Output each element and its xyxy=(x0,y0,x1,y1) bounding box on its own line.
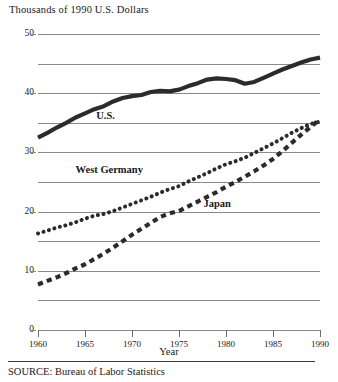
plot-area: U.S. West Germany Japan xyxy=(38,34,320,330)
y-tick-mark xyxy=(31,212,36,213)
series-line-west-germany xyxy=(38,122,320,234)
y-tick-label: 0 xyxy=(8,324,34,334)
y-axis-title: Thousands of 1990 U.S. Dollars xyxy=(9,4,149,15)
series-layer xyxy=(38,34,320,330)
x-tick-mark xyxy=(226,330,227,337)
y-tick-mark xyxy=(31,34,36,35)
y-tick-mark xyxy=(31,271,36,272)
source-note: SOURCE: Bureau of Labor Statistics xyxy=(8,366,165,377)
y-tick-label: 20 xyxy=(8,206,34,216)
series-label-us: U.S. xyxy=(96,110,115,121)
x-tick-mark xyxy=(320,330,321,337)
y-tick-label: 40 xyxy=(8,87,34,97)
chart-figure: Thousands of 1990 U.S. Dollars U.S. West… xyxy=(0,0,338,382)
y-tick-label: 50 xyxy=(8,28,34,38)
series-label-west-germany: West Germany xyxy=(76,164,143,175)
x-tick-mark xyxy=(179,330,180,337)
y-tick-mark xyxy=(31,330,36,331)
x-tick-mark xyxy=(38,330,39,337)
series-line-us xyxy=(38,58,320,138)
x-tick-mark xyxy=(85,330,86,337)
series-label-japan: Japan xyxy=(203,198,230,209)
y-tick-label: 10 xyxy=(8,265,34,275)
x-tick-mark xyxy=(132,330,133,337)
y-tick-mark xyxy=(31,93,36,94)
y-tick-mark xyxy=(31,152,36,153)
x-axis-title: Year xyxy=(0,346,338,357)
series-line-japan xyxy=(38,119,320,284)
y-tick-label: 30 xyxy=(8,146,34,156)
source-divider xyxy=(8,361,315,362)
x-tick-mark xyxy=(273,330,274,337)
